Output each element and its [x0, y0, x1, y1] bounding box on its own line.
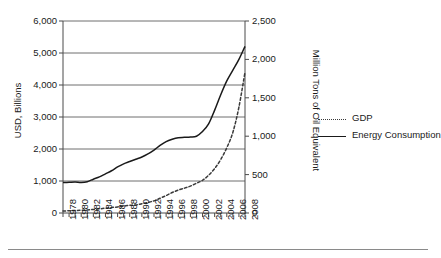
y-tick-label-left: 5,000: [17, 47, 57, 58]
x-tick-label: 1992: [152, 199, 163, 220]
x-tick-label: 2002: [213, 199, 224, 220]
series-line-gdp: [63, 72, 245, 211]
y-tick-label-right: 1,000: [252, 130, 292, 141]
y-tick-label-left: 1,000: [17, 175, 57, 186]
legend-label-energy-consumption: Energy Consumption: [352, 129, 441, 140]
x-tick-label: 1986: [116, 199, 127, 220]
legend-swatch-dashed-icon: [318, 119, 346, 120]
y-tick-group-right: [245, 21, 249, 213]
x-tick-label: 2006: [237, 199, 248, 220]
x-tick-label: 1990: [140, 199, 151, 220]
x-tick-label: 1988: [128, 199, 139, 220]
legend-label-gdp: GDP: [352, 112, 373, 123]
bottom-divider: [8, 249, 428, 250]
x-tick-label: 1994: [164, 199, 175, 220]
y-axis-title-right: Million Tons of Oil Equivalent: [311, 31, 322, 191]
x-tick-label: 1984: [103, 199, 114, 220]
x-tick-label: 1980: [79, 199, 90, 220]
x-tick-label: 1982: [91, 199, 102, 220]
x-tick-label: 1996: [176, 199, 187, 220]
x-tick-label: 2008: [249, 199, 260, 220]
y-tick-label-right: 1,500: [252, 92, 292, 103]
y-tick-label-left: 3,000: [17, 111, 57, 122]
x-tick-label: 2004: [225, 199, 236, 220]
y-tick-label-left: 4,000: [17, 79, 57, 90]
y-tick-label-right: 2,000: [252, 53, 292, 64]
y-tick-group-left: [59, 21, 63, 213]
x-tick-label: 1998: [188, 199, 199, 220]
y-tick-label-right: 2,500: [252, 15, 292, 26]
legend-swatch-solid-icon: [318, 136, 346, 137]
series-line-energy-consumption: [63, 46, 245, 182]
y-tick-label-right: 500: [252, 169, 292, 180]
y-tick-label-left: 2,000: [17, 143, 57, 154]
y-tick-label-left: 0: [17, 207, 57, 218]
x-tick-label: 2000: [200, 199, 211, 220]
x-tick-label: 1978: [67, 199, 78, 220]
y-tick-label-left: 6,000: [17, 15, 57, 26]
